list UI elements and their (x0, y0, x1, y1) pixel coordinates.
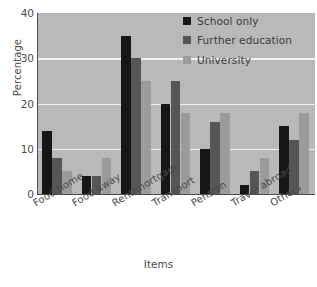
bar (220, 113, 230, 194)
bar (131, 58, 141, 194)
legend-swatch (183, 56, 191, 64)
legend-item: Further education (183, 34, 292, 47)
bar (260, 158, 270, 194)
legend-label: Further education (197, 34, 292, 46)
bar (92, 176, 102, 194)
x-axis-line (37, 194, 315, 195)
bar (42, 131, 52, 194)
y-tick-label: 10 (4, 143, 34, 155)
bar (161, 104, 171, 195)
y-axis-ticks: 010203040 (0, 0, 34, 287)
bar (121, 36, 131, 194)
legend-label: University (197, 54, 251, 66)
legend: School onlyFurther educationUniversity (183, 14, 292, 73)
bar (181, 113, 191, 194)
bar (102, 158, 112, 194)
bar (141, 81, 151, 194)
bar (82, 176, 92, 194)
bar (289, 140, 299, 194)
x-axis-title: Items (0, 258, 317, 270)
bar (171, 81, 181, 194)
bar (210, 122, 220, 194)
y-tick-label: 30 (4, 52, 34, 64)
legend-label: School only (197, 15, 259, 27)
bar-group (42, 13, 72, 194)
bar (52, 158, 62, 194)
y-tick-label: 0 (4, 188, 34, 200)
bar (299, 113, 309, 194)
y-tick-label: 40 (4, 7, 34, 19)
y-axis-line (37, 13, 38, 195)
legend-swatch (183, 36, 191, 44)
y-tick-label: 20 (4, 98, 34, 110)
bar (200, 149, 210, 194)
legend-item: University (183, 53, 292, 66)
bar-group (121, 13, 151, 194)
bar-chart: Percentage 010203040 Food homeFood awayR… (0, 0, 317, 287)
bar (279, 126, 289, 194)
bar (62, 171, 72, 194)
legend-swatch (183, 17, 191, 25)
bar-group (82, 13, 112, 194)
bar (240, 185, 250, 194)
legend-item: School only (183, 14, 292, 27)
bar (250, 171, 260, 194)
